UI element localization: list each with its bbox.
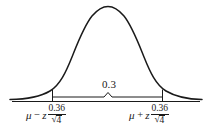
radicand-lower: 4 [56,115,62,126]
interval-probability-label: 0.3 [94,79,124,90]
fraction-upper: 0.36 √4 [151,104,169,126]
radicand-upper: 4 [159,115,165,126]
fraction-denominator-upper: √4 [154,115,166,126]
lower-bound-label: μ − z 0.36 √4 [26,104,66,126]
upper-bound-label: μ + z 0.36 √4 [129,104,169,126]
normal-curve-figure: 0.3 μ − z 0.36 √4 μ + z 0.36 √4 [0,0,212,139]
fraction-denominator-lower: √4 [51,115,63,126]
minus-operator: − [32,110,42,121]
fraction-numerator-upper: 0.36 [151,104,169,114]
fraction-numerator-lower: 0.36 [48,104,66,114]
plus-operator: + [135,110,145,121]
fraction-lower: 0.36 √4 [48,104,66,126]
interval-bracket [53,93,163,98]
